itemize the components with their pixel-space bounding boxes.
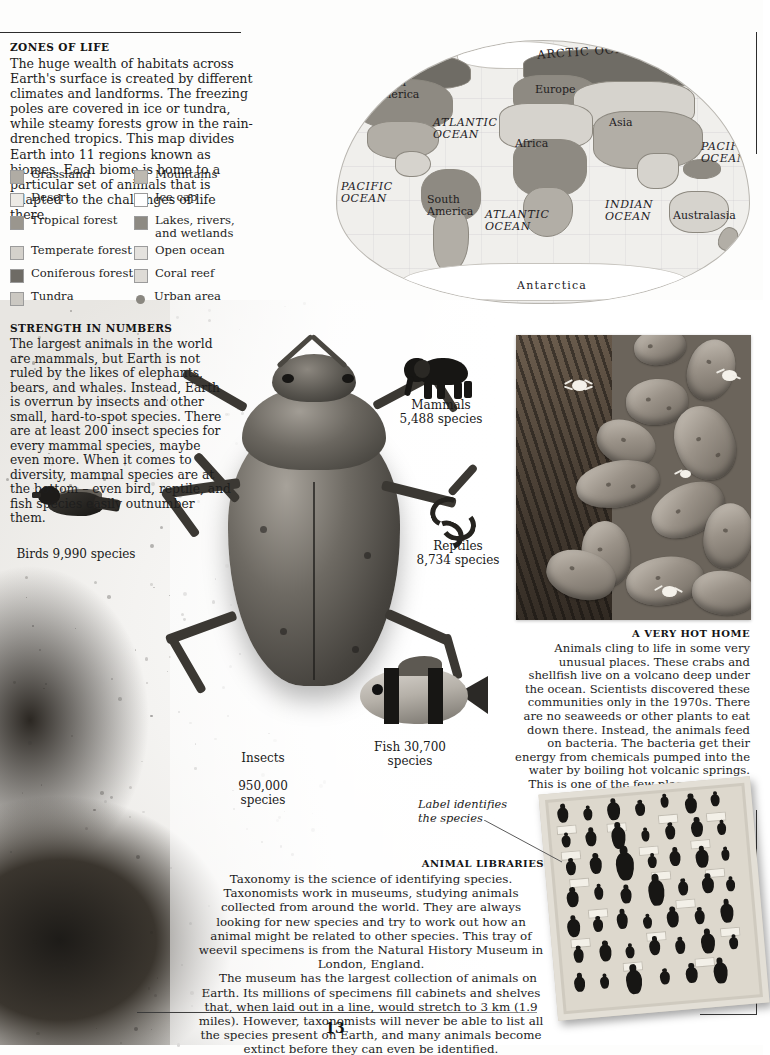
map-label-antarctica: Antarctica	[517, 279, 587, 292]
shellfish	[632, 335, 689, 368]
map-label-pacific-east: PACIFIC OCEAN	[701, 141, 750, 165]
beetle-eye-left	[282, 374, 294, 383]
legend-item-mountains: Mountains	[134, 168, 258, 191]
fish-band	[384, 668, 399, 724]
map-label-pacific-west: PACIFIC OCEAN	[341, 181, 393, 205]
beetle-eye-right	[342, 374, 354, 383]
tray-inner	[548, 786, 759, 1011]
legend-item-coral-reef: Coral reef	[134, 267, 258, 290]
fish-band	[428, 668, 443, 724]
mammals-count: 5,488 species	[395, 412, 487, 426]
elephant-leg	[464, 381, 472, 398]
legend-item-desert: Desert	[10, 191, 134, 214]
map-land-central-america	[395, 151, 431, 177]
map-label-indian: INDIAN OCEAN	[605, 199, 653, 223]
elephant-leg	[437, 382, 445, 399]
beetle-spot	[280, 628, 287, 635]
frame-rule-bottom-right	[700, 1014, 757, 1015]
vent-crab	[674, 465, 700, 485]
elephant-leg	[454, 382, 462, 399]
map-label-africa: Africa	[515, 137, 548, 150]
map-label-north-america: North America	[373, 77, 419, 101]
legend-item-urban-area: Urban area	[134, 290, 258, 313]
legend-swatch-icon	[134, 246, 148, 260]
legend-swatch-icon	[134, 193, 148, 207]
frame-rule-right-upper	[756, 32, 757, 154]
insects-name: Insects	[215, 751, 311, 765]
birds-name: Birds 9,990 species	[14, 547, 138, 561]
birds-label: Birds 9,990 species	[14, 547, 138, 561]
legend-swatch-icon	[10, 246, 24, 260]
vent-crab	[656, 581, 682, 601]
fish-label: Fish 30,700 species	[355, 740, 465, 768]
animal-libraries-paragraph-1: Taxonomy is the science of identifying s…	[198, 872, 544, 971]
legend-swatch-icon	[10, 269, 24, 283]
legend-label: Grassland	[31, 168, 90, 181]
legend-swatch-icon	[134, 170, 148, 184]
legend-item-grassland: Grassland	[10, 168, 134, 191]
frame-rule-top-left	[0, 32, 241, 33]
legend-swatch-icon	[10, 216, 24, 230]
legend-label: Tundra	[31, 290, 74, 303]
a-very-hot-home-heading: A VERY HOT HOME	[512, 628, 750, 639]
map-label-south-america: South America	[427, 194, 473, 218]
legend-item-temperate-forest: Temperate forest	[10, 244, 134, 267]
map-label-asia: Asia	[609, 116, 633, 129]
legend-label: Coniferous forest	[31, 267, 133, 280]
legend-swatch-icon	[10, 193, 24, 207]
legend-dot-icon	[136, 295, 145, 304]
fish-body	[360, 668, 468, 724]
map-label-australasia: Australasia	[673, 209, 736, 222]
legend-swatch-icon	[10, 170, 24, 184]
insects-label: Insects 950,000 species	[215, 737, 311, 821]
legend-item-lakes-rivers-wetlands: Lakes, rivers, and wetlands	[134, 214, 258, 244]
snake-silhouette	[428, 495, 480, 543]
map-globe: ARCTIC OCEAN North America South America…	[336, 40, 750, 304]
mammals-name: Mammals	[395, 398, 487, 412]
legend-item-ice-cap: Ice cap	[134, 191, 258, 214]
map-label-atlantic-south: ATLANTIC OCEAN	[485, 209, 549, 233]
legend-label: Open ocean	[155, 244, 225, 257]
vent-crab	[566, 375, 592, 395]
strength-in-numbers-body: The largest animals in the world are mam…	[10, 337, 232, 526]
zones-of-life-heading: ZONES OF LIFE	[10, 41, 256, 53]
reptiles-name: Reptiles	[408, 539, 508, 553]
hydrothermal-vent-photo	[516, 335, 751, 620]
page-number: 13	[0, 1020, 670, 1036]
legend-label: Coral reef	[155, 267, 214, 280]
elephant-silhouette	[404, 352, 476, 398]
legend-item-tropical-forest: Tropical forest	[10, 214, 134, 244]
legend-swatch-icon	[134, 269, 148, 283]
clownfish-silhouette	[350, 650, 490, 740]
biome-legend: Grassland Mountains Desert Ice cap Tropi…	[10, 168, 258, 313]
elephant-leg	[424, 382, 432, 399]
animal-libraries-paragraph-2: The museum has the largest collection of…	[198, 971, 544, 1055]
beetle-leg-hind-right	[384, 608, 452, 646]
strength-in-numbers-heading: STRENGTH IN NUMBERS	[10, 322, 232, 334]
map-land-india	[637, 153, 679, 189]
elephant-trunk	[404, 376, 414, 397]
legend-label: Tropical forest	[31, 214, 117, 227]
legend-label: Desert	[31, 191, 70, 204]
elephant-ear	[414, 360, 430, 378]
legend-item-open-ocean: Open ocean	[134, 244, 258, 267]
insects-count: 950,000 species	[215, 779, 311, 807]
reptiles-count: 8,734 species	[408, 553, 508, 567]
legend-item-tundra: Tundra	[10, 290, 134, 313]
legend-label: Lakes, rivers, and wetlands	[155, 214, 258, 240]
beetle-leg-hind-left-2	[168, 636, 207, 694]
legend-label: Temperate forest	[31, 244, 132, 257]
weevil-specimen-tray	[539, 776, 770, 1021]
fish-name: Fish 30,700	[355, 740, 465, 754]
reptiles-label: Reptiles 8,734 species	[408, 539, 508, 567]
fish-count: species	[355, 754, 465, 768]
mammals-label: Mammals 5,488 species	[395, 398, 487, 426]
world-biome-map: ARCTIC OCEAN North America South America…	[330, 22, 755, 307]
vent-crab	[716, 365, 742, 385]
map-label-europe: Europe	[535, 83, 576, 96]
beetle-elytra-seam	[313, 482, 315, 680]
legend-label: Ice cap	[155, 191, 197, 204]
legend-swatch-icon	[134, 216, 148, 230]
fish-eye	[372, 684, 383, 695]
